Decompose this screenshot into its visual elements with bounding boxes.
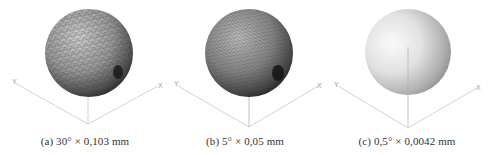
panel-a: Y X (a) 30° × 0,103 mm xyxy=(0,0,170,155)
sphere-coarse-mesh-plot: Y X xyxy=(0,0,170,135)
x-axis-label: X xyxy=(476,84,481,91)
sphere-smooth-plot: Y X xyxy=(322,0,492,135)
caption-b: (b) 5° × 0,05 mm xyxy=(160,135,330,147)
y-axis-label: Y xyxy=(174,80,179,87)
panel-b: Y X (b) 5° × 0,05 mm xyxy=(160,0,330,155)
y-axis-label: Y xyxy=(334,81,339,88)
caption-a: (a) 30° × 0,103 mm xyxy=(0,135,170,147)
sphere xyxy=(31,0,150,114)
sphere xyxy=(192,0,308,113)
figure-sphere-tessellation: Y X (a) 30° × 0,103 mm xyxy=(0,0,492,155)
y-axis-label: Y xyxy=(12,78,17,85)
sphere-fine-mesh-plot: Y X xyxy=(160,0,330,135)
caption-c: (c) 0,5° × 0,0042 mm xyxy=(322,135,492,147)
panel-c: Y X (c) 0,5° × 0,0042 mm xyxy=(322,0,492,155)
